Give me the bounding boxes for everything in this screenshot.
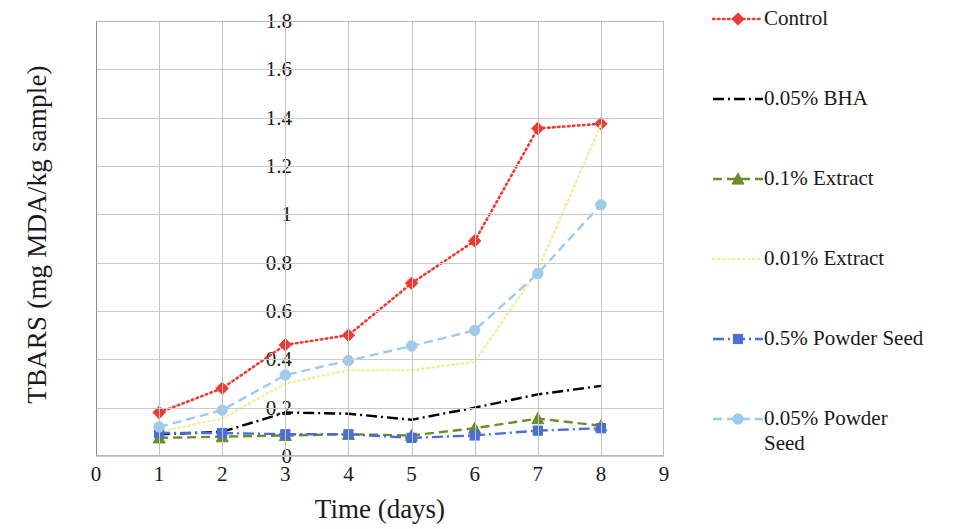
legend-label: 0.05% Powder Seed [764,406,888,456]
legend-item[interactable]: 0.05% BHA [712,86,960,111]
legend-item[interactable]: 0.1% Extract [712,166,960,191]
x-axis-tick-label: 6 [455,462,495,487]
y-axis-title: TBARS (mg MDA/kg sample) [22,5,53,465]
legend-label: Control [764,6,828,31]
legend-item[interactable]: 0.05% Powder Seed [712,406,960,456]
plot-area [96,21,664,456]
legend-item[interactable]: 0.01% Extract [712,246,960,271]
legend-swatch [712,328,764,350]
legend-label: 0.5% Powder Seed [764,326,923,351]
legend-swatch [712,168,764,190]
legend-swatch [712,248,764,270]
chart-figure: TBARS (mg MDA/kg sample) 00.20.40.60.811… [0,0,960,529]
legend-swatch [712,8,764,30]
data-point-marker [733,334,742,343]
x-axis-tick-label: 5 [392,462,432,487]
gridline-horizontal [96,456,664,457]
chart-legend: Control0.05% BHA0.1% Extract0.01% Extrac… [712,0,960,470]
x-axis-tick-label: 7 [518,462,558,487]
x-axis-title: Time (days) [96,494,664,525]
data-point-marker [732,13,744,25]
legend-item[interactable]: 0.5% Powder Seed [712,326,960,351]
x-axis-tick-label: 1 [139,462,179,487]
legend-item[interactable]: Control [712,6,960,31]
legend-label: 0.1% Extract [764,166,874,191]
x-axis-tick-label: 8 [581,462,621,487]
x-axis-tick-label: 9 [644,462,684,487]
legend-swatch [712,408,764,430]
legend-label: 0.01% Extract [764,246,884,271]
x-axis-tick-label: 3 [265,462,305,487]
plot-frame [96,21,664,456]
x-axis-tick-label: 4 [328,462,368,487]
x-axis-tick-label: 2 [202,462,242,487]
x-axis-tick-label: 0 [76,462,116,487]
legend-label: 0.05% BHA [764,86,868,111]
data-point-marker [733,414,743,424]
legend-swatch [712,88,764,110]
